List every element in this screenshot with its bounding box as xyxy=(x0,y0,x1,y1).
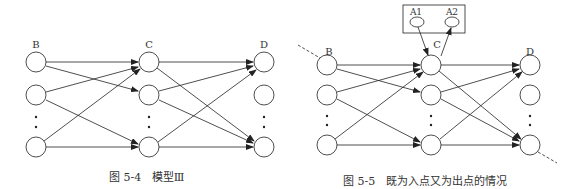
label-layer-c-left: C xyxy=(145,39,153,50)
edges-c-d xyxy=(157,62,256,147)
node-bn xyxy=(26,137,46,157)
caption-text: 模型Ⅲ xyxy=(152,171,185,184)
caption-figure-5-5: 图 5-5 既为入点又为出点的情况 xyxy=(343,172,507,188)
label-layer-d-right: D xyxy=(526,46,534,57)
layer-c-nodes xyxy=(139,52,159,157)
node-a1 xyxy=(410,17,424,27)
layer-b-nodes xyxy=(26,52,46,157)
dashed-line-out xyxy=(538,152,557,163)
caption-figure-5-4: 图 5-4 模型Ⅲ xyxy=(109,168,184,184)
caption-text: 既为入点又为出点的情况 xyxy=(386,175,507,188)
node-b1 xyxy=(26,52,46,72)
label-layer-d-left: D xyxy=(260,39,268,50)
label-a2: A2 xyxy=(445,7,458,17)
diagram-canvas: B C D B C D A1 A2 xyxy=(0,0,579,189)
label-layer-c-right: C xyxy=(433,39,441,50)
node-c1 xyxy=(139,52,159,72)
caption-number: 图 5-5 xyxy=(343,175,375,188)
node-c2 xyxy=(139,85,159,105)
figure-5-5 xyxy=(298,5,557,163)
node-d1 xyxy=(254,52,274,72)
figure-5-4 xyxy=(26,52,274,157)
node-b2 xyxy=(26,85,46,105)
label-layer-b-right: B xyxy=(325,46,332,57)
caption-number: 图 5-4 xyxy=(109,171,141,184)
label-a1: A1 xyxy=(409,7,422,17)
node-d2 xyxy=(254,85,274,105)
node-cn xyxy=(139,137,159,157)
label-layer-b-left: B xyxy=(32,39,39,50)
dashed-line-in xyxy=(298,45,320,58)
layer-d-nodes xyxy=(254,52,274,157)
edges-b-c xyxy=(44,62,140,147)
node-a2 xyxy=(445,17,459,27)
node-dn xyxy=(254,137,274,157)
